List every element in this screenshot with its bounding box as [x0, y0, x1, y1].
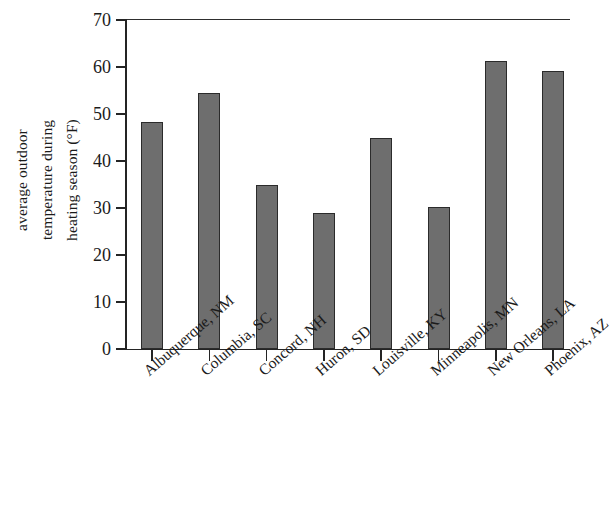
- y-axis-title: average outdoor temperature during heati…: [0, 0, 92, 360]
- y-tick-label-20: 20: [93, 243, 111, 267]
- y-tick-mark-30: [116, 207, 125, 209]
- y-tick-mark-40: [116, 160, 125, 162]
- y-axis-line: [125, 19, 127, 350]
- y-tick-mark-0: [116, 348, 125, 350]
- y-tick-mark-20: [116, 254, 125, 256]
- y-tick-label-70: 70: [93, 8, 111, 32]
- y-tick-mark-10: [116, 301, 125, 303]
- y-tick-label-30: 30: [93, 196, 111, 220]
- y-tick-mark-60: [116, 66, 125, 68]
- y-axis-title-line-2: temperature during: [34, 119, 59, 241]
- y-axis-title-line-3: heating season (°F): [59, 119, 84, 241]
- plot-top-border: [125, 19, 570, 20]
- y-tick-mark-50: [116, 113, 125, 115]
- y-tick-mark-70: [116, 19, 125, 21]
- y-tick-label-50: 50: [93, 102, 111, 126]
- bar-0: [141, 122, 163, 349]
- y-axis-title-line-1: average outdoor: [9, 119, 34, 241]
- y-tick-label-40: 40: [93, 149, 111, 173]
- y-tick-label-60: 60: [93, 55, 111, 79]
- y-tick-label-0: 0: [102, 337, 111, 361]
- bar-4: [370, 138, 392, 350]
- y-tick-label-10: 10: [93, 290, 111, 314]
